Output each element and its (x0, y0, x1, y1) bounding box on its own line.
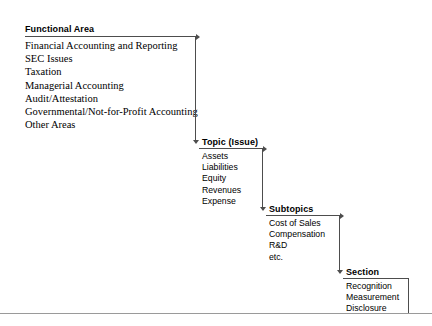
level-section: Section Recognition Measurement Disclosu… (346, 267, 399, 315)
list-item: Managerial Accounting (25, 79, 198, 92)
list-item: Liabilities (202, 162, 258, 173)
list-item: Recognition (346, 281, 399, 292)
connector-line-subtopics-underline (266, 215, 340, 216)
connector-arrow-subtopics-right (340, 213, 344, 219)
connector-line-section-underline (343, 278, 409, 279)
connector-line-topic-underline (199, 148, 263, 149)
level-heading-functional-area: Functional Area (25, 24, 198, 35)
level-list-functional-area: Financial Accounting and Reporting SEC I… (25, 39, 198, 131)
list-item: Equity (202, 173, 258, 184)
level-heading-topic-issue: Topic (Issue) (202, 137, 258, 148)
connector-line-topic-to-subtopics (262, 148, 263, 207)
list-item: SEC Issues (25, 52, 198, 65)
level-subtopics: Subtopics Cost of Sales Compensation R&D… (269, 204, 325, 263)
list-item: Taxation (25, 65, 198, 78)
connector-line-subtopics-to-section (339, 215, 340, 270)
list-item: Cost of Sales (269, 218, 325, 229)
list-item: R&D (269, 240, 325, 251)
connector-line-section-trailing (408, 278, 409, 314)
level-list-section: Recognition Measurement Disclosure (346, 281, 399, 315)
list-item: Financial Accounting and Reporting (25, 39, 198, 52)
figure-bottom-rule (0, 313, 432, 314)
connector-arrow-functional-area-right (196, 34, 200, 40)
list-item: Compensation (269, 229, 325, 240)
connector-arrow-into-topic (193, 140, 199, 144)
connector-arrow-topic-right (263, 146, 267, 152)
list-item: Audit/Attestation (25, 92, 198, 105)
list-item: Measurement (346, 292, 399, 303)
connector-arrow-into-section (337, 270, 343, 274)
connector-arrow-into-subtopics (260, 207, 266, 211)
level-list-topic-issue: Assets Liabilities Equity Revenues Expen… (202, 151, 258, 207)
level-list-subtopics: Cost of Sales Compensation R&D etc. (269, 218, 325, 263)
hierarchy-diagram: Functional Area Financial Accounting and… (0, 0, 432, 326)
connector-line-functional-area-underline (25, 36, 196, 37)
list-item: etc. (269, 252, 325, 263)
list-item: Assets (202, 151, 258, 162)
list-item: Other Areas (25, 118, 198, 131)
level-functional-area: Functional Area Financial Accounting and… (25, 24, 198, 131)
connector-line-functional-area-to-topic (195, 36, 196, 140)
level-heading-section: Section (346, 267, 399, 278)
list-item: Expense (202, 196, 258, 207)
list-item: Governmental/Not-for-Profit Accounting (25, 105, 198, 118)
level-heading-subtopics: Subtopics (269, 204, 325, 215)
list-item: Revenues (202, 185, 258, 196)
